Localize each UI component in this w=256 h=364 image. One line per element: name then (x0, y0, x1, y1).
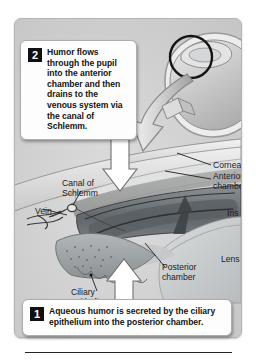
step-2-text: Humor flows through the pupil into the a… (47, 47, 129, 132)
label-posterior-chamber: Posterior chamber (162, 262, 196, 282)
step-2-badge: 2 (28, 48, 42, 62)
step-1-text: Aqueous humor is secreted by the ciliary… (49, 306, 224, 328)
step-2-callout: 2 Humor flows through the pupil into the… (20, 40, 137, 140)
step-1-badge: 1 (30, 307, 44, 321)
aqueous-humor-figure: Aqueous humor circulation in the anterio… (0, 0, 256, 364)
step-1-callout: 1 Aqueous humor is secreted by the cilia… (22, 299, 232, 336)
footer-divider (25, 352, 232, 353)
canal-of-schlemm (68, 204, 77, 211)
label-lens: Lens (221, 254, 240, 264)
label-canal-of-schlemm: Canal of Schlemm (62, 178, 98, 198)
label-anterior-chamber: Anterior chamber (213, 171, 242, 191)
figure-title: Aqueous humor circulation in the anterio… (0, 21, 1, 22)
label-cornea: Cornea (213, 160, 241, 170)
label-vein: Vein (35, 206, 52, 216)
label-iris: Iris (227, 208, 238, 218)
